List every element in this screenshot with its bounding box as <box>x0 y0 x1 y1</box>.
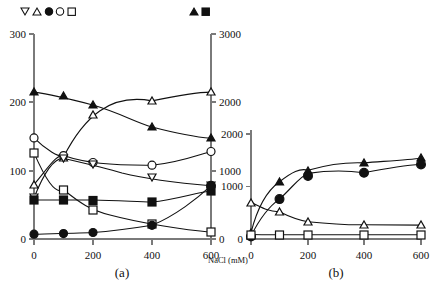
panel-b-ylabel-2000: 2000 <box>221 128 244 140</box>
panel-a-ylabel-300: 300 <box>10 28 27 40</box>
chart-canvas: 300 200 100 0 3000 2000 1000 0 0 200 400… <box>0 0 438 281</box>
legend-up-triangle-open-icon <box>33 8 41 15</box>
panel-b-xlabel-0: 0 <box>248 249 254 261</box>
panel-a-markers-square-open <box>30 149 215 236</box>
legend-left-symbols <box>21 8 75 16</box>
panel-b-markers-circle-filled <box>247 160 426 241</box>
legend-circle-open-icon <box>56 8 63 15</box>
panel-b-ylabel-1000: 1000 <box>221 180 244 192</box>
legend-circle-filled-icon <box>45 8 52 15</box>
panel-b: 2000 1000 0 0 200 400 600 (b) <box>221 128 430 280</box>
panel-a-caption: (a) <box>115 265 129 280</box>
legend-right-symbols <box>190 8 209 15</box>
legend-square-open-icon <box>68 8 75 15</box>
panel-a-curve-triangle-open <box>34 92 211 184</box>
panel-b-xlabel-600: 600 <box>413 249 430 261</box>
panel-a-xlabel-0: 0 <box>31 249 37 261</box>
panel-b-ylabel-0: 0 <box>238 233 244 245</box>
panel-a-markers-circle-open <box>30 134 215 169</box>
panel-a: 300 200 100 0 3000 2000 1000 0 0 200 400… <box>10 28 242 280</box>
panel-a-markers-triangle-down-open <box>30 155 215 201</box>
legend-up-triangle-filled-icon <box>190 8 198 15</box>
panel-a-y2label-0: 0 <box>219 233 225 245</box>
panel-b-xlabel-200: 200 <box>300 249 317 261</box>
x-axis-title: NaCl (mM) <box>208 255 248 265</box>
panel-a-ylabel-0: 0 <box>21 233 27 245</box>
panel-a-xlabel-200: 200 <box>85 249 102 261</box>
panel-b-xlabel-400: 400 <box>356 249 373 261</box>
legend-square-filled-icon <box>202 8 209 15</box>
figure-container: 300 200 100 0 3000 2000 1000 0 0 200 400… <box>0 0 438 281</box>
panel-b-caption: (b) <box>328 265 343 280</box>
panel-a-y2label-3000: 3000 <box>219 28 242 40</box>
panel-a-y2label-1000: 1000 <box>219 165 242 177</box>
panel-a-ylabel-200: 200 <box>10 96 27 108</box>
panel-a-ylabel-100: 100 <box>10 165 27 177</box>
legend-down-triangle-open-icon <box>21 8 29 15</box>
panel-a-xlabel-400: 400 <box>144 249 161 261</box>
panel-a-y2label-2000: 2000 <box>219 96 242 108</box>
